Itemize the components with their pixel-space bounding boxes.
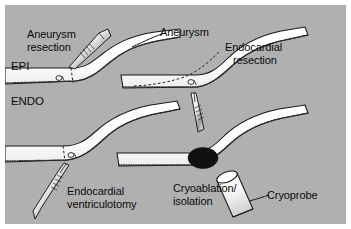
panel-bottom-left-label-line1: Endocardial	[67, 185, 124, 197]
panel-bottom-right-label-line2: isolation	[173, 195, 212, 207]
cryoprobe-label: Cryoprobe	[267, 189, 317, 201]
panel-bottom-right-label-line1: Cryoablation/	[173, 182, 237, 194]
endocardium-label: ENDO	[11, 95, 44, 107]
aneurysm-callout-label: Aneurysm	[160, 26, 209, 38]
cryoablation-lesion	[188, 148, 218, 169]
figure-container: EPI ENDO Aneurysm resection Aneurysm End…	[0, 0, 351, 229]
illustration-panel: EPI ENDO Aneurysm resection Aneurysm End…	[5, 5, 346, 224]
scalpel-icon-top-right	[191, 93, 204, 132]
panel-bottom-left-label-line2: ventriculotomy	[67, 198, 137, 210]
panel-top-left-label-line1: Aneurysm	[27, 28, 76, 40]
panel-top-right-label-line1: Endocardial	[225, 41, 282, 53]
epicardium-label: EPI	[11, 60, 29, 72]
panel-top-right-label-line2: resection	[233, 54, 277, 66]
scalpel-icon-bottom-left	[33, 163, 69, 219]
panel-top-left-label-line2: resection	[27, 41, 71, 53]
cryoprobe-callout-leader	[249, 195, 269, 201]
